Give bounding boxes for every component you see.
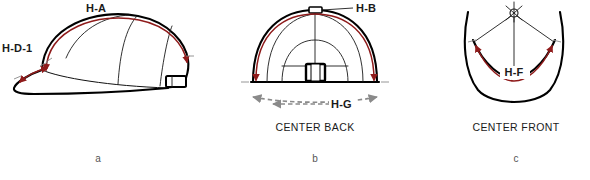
panel-a-side-view: H-A H-D-1 a xyxy=(0,0,225,180)
view-label-center-back: CENTER BACK xyxy=(275,121,354,133)
view-label-center-front: CENTER FRONT xyxy=(472,121,559,133)
back-closure-buckle xyxy=(306,64,325,81)
cap-measurement-figure: H-A H-D-1 a xyxy=(0,0,590,180)
crown-top-tab xyxy=(309,7,322,13)
dimension-label-h-f: H-F xyxy=(505,66,524,78)
dimension-h-d-1: H-D-1 xyxy=(2,42,52,82)
cap-side-outline xyxy=(14,14,188,94)
button-eyelet xyxy=(506,2,522,22)
panel-letter-b: b xyxy=(312,153,318,164)
dimension-h-f: H-F xyxy=(468,40,561,81)
dimension-h-a: H-A xyxy=(40,2,194,70)
panel-b-back-view: H-B H-G CENTER BACK b xyxy=(225,0,440,180)
dimension-label-h-d-1: H-D-1 xyxy=(2,42,32,54)
dimension-label-h-g: H-G xyxy=(331,98,352,110)
dimension-h-g: H-G xyxy=(253,97,377,110)
panel-letter-a: a xyxy=(95,153,101,164)
dimension-label-h-a: H-A xyxy=(86,2,106,14)
panel-letter-c: c xyxy=(514,153,519,164)
dimension-label-h-b: H-B xyxy=(356,2,376,14)
back-closure-buckle xyxy=(166,76,186,87)
panel-c-front-view: H-F CENTER FRONT c xyxy=(440,0,590,180)
